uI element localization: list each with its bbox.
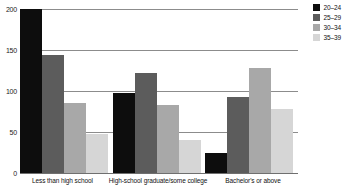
y-axis-tick-150: 150	[6, 47, 17, 54]
legend-swatch-35-39-icon	[313, 34, 320, 41]
bar-group-high-school-graduate-some-college	[113, 9, 206, 173]
legend-item-25-29: 25–29	[313, 13, 341, 21]
bar-high-school-graduate-some-college-30-34	[157, 105, 179, 173]
legend-swatch-30-34-icon	[313, 24, 320, 31]
legend-swatch-20-24-icon	[313, 4, 320, 11]
plot-area: 200 150 100 50 0	[20, 9, 298, 173]
legend: 20–24 25–29 30–34 35–39	[313, 3, 341, 41]
bar-less-than-high-school-30-34	[64, 103, 86, 173]
legend-label-35-39: 35–39	[323, 34, 341, 41]
gridline-0-baseline: 0	[20, 173, 298, 174]
legend-item-20-24: 20–24	[313, 3, 341, 11]
x-axis-label-high-school-graduate-some-college: High-school graduate/some college	[105, 177, 208, 185]
legend-label-20-24: 20–24	[323, 4, 341, 11]
legend-swatch-25-29-icon	[313, 14, 320, 21]
bar-less-than-high-school-20-24	[20, 9, 42, 173]
legend-item-35-39: 35–39	[313, 33, 341, 41]
x-axis-label-bachelors-or-above: Bachelor's or above	[207, 177, 298, 185]
bar-bachelors-or-above-35-39	[271, 109, 293, 173]
x-axis-label-less-than-high-school: Less than high school	[20, 177, 105, 185]
grouped-bar-chart: 200 150 100 50 0	[0, 0, 343, 193]
y-axis-tick-0: 0	[13, 170, 17, 177]
y-axis-tick-50: 50	[10, 129, 17, 136]
bar-high-school-graduate-some-college-25-29	[135, 73, 157, 173]
x-axis-labels: Less than high school High-school gradua…	[20, 177, 298, 185]
bar-bachelors-or-above-25-29	[227, 97, 249, 173]
bar-less-than-high-school-35-39	[86, 134, 108, 173]
bar-bachelors-or-above-20-24	[205, 153, 227, 174]
y-axis-tick-200: 200	[6, 6, 17, 13]
bar-less-than-high-school-25-29	[42, 55, 64, 173]
bar-group-bachelors-or-above	[205, 9, 298, 173]
y-axis-tick-100: 100	[6, 88, 17, 95]
legend-label-30-34: 30–34	[323, 24, 341, 31]
legend-label-25-29: 25–29	[323, 14, 341, 21]
bar-bachelors-or-above-30-34	[249, 68, 271, 173]
bar-high-school-graduate-some-college-20-24	[113, 93, 135, 173]
bar-groups	[20, 9, 298, 173]
bar-group-less-than-high-school	[20, 9, 113, 173]
legend-item-30-34: 30–34	[313, 23, 341, 31]
bar-high-school-graduate-some-college-35-39	[179, 140, 201, 173]
